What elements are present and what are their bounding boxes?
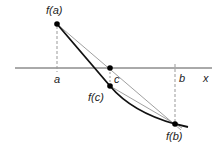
- b-label: b: [179, 73, 185, 84]
- function-curve: [57, 24, 188, 127]
- x-axis-label: x: [203, 73, 209, 84]
- diagram-svg: [0, 0, 224, 152]
- a-label: a: [54, 74, 60, 85]
- secant-line-fc-fb: [110, 86, 182, 128]
- diagram-canvas: f(a) a c f(c) b x f(b): [0, 0, 224, 152]
- fb-point: [172, 121, 178, 127]
- fa-label: f(a): [46, 5, 63, 16]
- fc-label: f(c): [88, 92, 104, 103]
- fa-point: [54, 21, 60, 27]
- c-point: [107, 65, 113, 71]
- fc-point: [107, 83, 113, 89]
- fb-label: f(b): [166, 131, 183, 142]
- c-label: c: [114, 74, 120, 85]
